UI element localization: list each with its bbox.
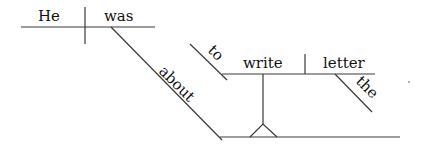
sentence-diagram: He was about to write letter the [0,0,425,156]
subject-word: He [38,7,60,25]
infinitive-verb-word: write [243,54,283,72]
stray-dot [408,81,410,83]
preposition-word: about [155,62,198,105]
verb-word: was [104,7,133,25]
diagram-svg: He was about to write letter the [0,0,425,156]
object-word: letter [323,54,366,72]
pedestal-triangle [250,124,277,137]
article-word: the [352,72,382,102]
